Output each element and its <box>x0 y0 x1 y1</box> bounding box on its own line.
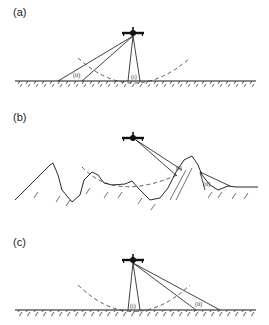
svg-text:(i): (i) <box>176 165 182 172</box>
svg-text:(ii): (ii) <box>203 181 210 188</box>
panel-a: (ii) (i) <box>15 27 256 87</box>
aircraft-icon <box>122 27 144 36</box>
svg-text:(ii): (ii) <box>73 72 80 79</box>
diagram-canvas: (ii) (i) (i) (ii) (i) (ii) <box>0 0 269 325</box>
aircraft-icon <box>122 132 144 141</box>
svg-text:(i): (i) <box>131 74 137 81</box>
panel-c: (i) (ii) <box>15 254 256 316</box>
svg-text:(ii): (ii) <box>195 301 202 308</box>
panel-b: (i) (ii) <box>15 132 258 210</box>
aircraft-icon <box>122 254 144 263</box>
svg-text:(i): (i) <box>130 303 136 310</box>
